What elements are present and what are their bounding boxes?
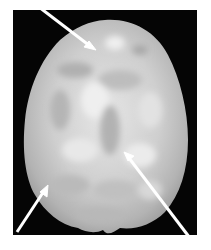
arrow-bottom-left-icon bbox=[17, 185, 48, 232]
brain-rendering bbox=[0, 0, 211, 250]
